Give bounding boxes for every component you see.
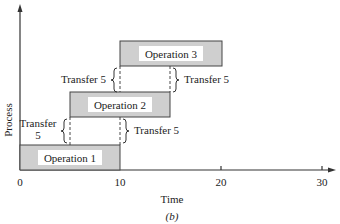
operation-2-label: Operation 2 (94, 99, 146, 111)
x-tick-30: 30 (317, 176, 329, 188)
operation-1-bar: Operation 1 (20, 145, 120, 170)
left-brace-icon-1 (61, 119, 67, 143)
operation-3-bar: Operation 3 (120, 41, 222, 66)
figure-caption: (b) (166, 210, 179, 223)
transfer-label-2a: Transfer 5 (61, 73, 107, 85)
y-axis-arrow-icon (18, 4, 23, 12)
operation-2-bar: Operation 2 (70, 92, 170, 117)
transfer-label-2b: Transfer 5 (184, 73, 230, 85)
x-axis-arrow-icon (328, 168, 336, 173)
y-axis-label: Process (2, 103, 14, 137)
right-brace-icon-2 (173, 68, 179, 92)
right-brace-icon-1 (123, 119, 129, 143)
pipeline-diagram: 0 10 20 30 Process Time (b) Operation 1 … (0, 0, 340, 224)
transfer-label-1a-line2: 5 (35, 129, 41, 141)
transfer-label-1b: Transfer 5 (134, 124, 180, 136)
x-axis-label: Time (161, 193, 184, 205)
operation-3-label: Operation 3 (145, 48, 198, 60)
transfer-label-1a-line1: Transfer (20, 117, 57, 129)
x-tick-20: 20 (216, 176, 228, 188)
x-tick-0: 0 (17, 176, 23, 188)
operation-1-label: Operation 1 (44, 152, 96, 164)
x-tick-10: 10 (115, 176, 127, 188)
left-brace-icon-2 (111, 68, 117, 92)
